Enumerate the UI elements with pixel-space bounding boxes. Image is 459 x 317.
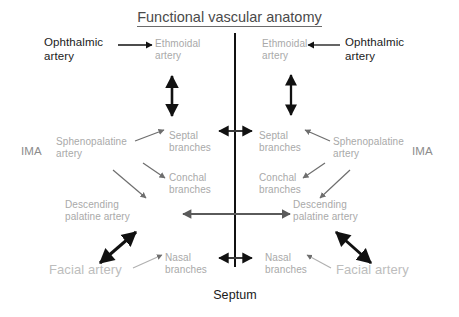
label-right-septal-branches: Septal branches <box>259 130 319 154</box>
label-left-septal-branches: Septal branches <box>169 130 229 154</box>
label-right-sphenopalatine-artery: Sphenopalatine artery <box>333 136 415 160</box>
label-right-ima: IMA <box>412 145 446 159</box>
label-left-conchal-branches: Conchal branches <box>169 172 229 196</box>
arrow-right-spheno-to-descending-palatine <box>320 170 350 198</box>
label-right-conchal-branches: Conchal branches <box>259 172 319 196</box>
vascular-anatomy-diagram: Functional vascular anatomy <box>0 0 459 317</box>
label-left-ophthalmic-artery: Ophthalmic artery <box>44 36 122 63</box>
label-right-nasal-branches: Nasal branches <box>265 252 323 276</box>
arrow-left-descending-palatine-facial <box>100 232 136 263</box>
label-left-ima: IMA <box>21 145 53 159</box>
label-right-descending-palatine-artery: Descending palatine artery <box>293 199 413 223</box>
label-right-facial-artery: Facial artery <box>336 262 436 277</box>
label-right-ophthalmic-artery: Ophthalmic artery <box>345 36 425 63</box>
label-left-ethmoidal-artery: Ethmoidal artery <box>155 38 217 62</box>
label-septum: Septum <box>180 288 290 303</box>
label-left-facial-artery: Facial artery <box>49 262 145 277</box>
arrow-right-descending-palatine-facial <box>336 232 371 263</box>
arrow-left-spheno-to-descending-palatine <box>113 170 146 198</box>
label-left-sphenopalatine-artery: Sphenopalatine artery <box>56 136 136 160</box>
label-left-descending-palatine-artery: Descending palatine artery <box>65 199 185 223</box>
label-left-nasal-branches: Nasal branches <box>165 252 223 276</box>
arrow-left-spheno-to-conchal <box>143 163 165 178</box>
label-right-ethmoidal-artery: Ethmoidal artery <box>262 38 324 62</box>
arrow-left-spheno-to-septal <box>135 130 164 141</box>
